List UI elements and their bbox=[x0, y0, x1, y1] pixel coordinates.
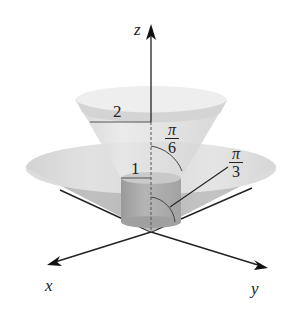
z-axis-label: z bbox=[134, 21, 141, 38]
diagram-canvas bbox=[0, 0, 296, 316]
angle-pi-3-numerator: π bbox=[228, 146, 244, 161]
radius-label-1: 1 bbox=[131, 160, 140, 177]
y-axis-line bbox=[151, 232, 258, 265]
angle-pi-6-numerator: π bbox=[164, 122, 180, 137]
cone-diagram: z x y 2 1 π 6 π 3 bbox=[0, 0, 296, 316]
radius-label-2: 2 bbox=[113, 103, 122, 120]
x-axis-line bbox=[55, 232, 151, 262]
angle-pi-6-denominator: 6 bbox=[164, 140, 180, 156]
x-axis-label: x bbox=[45, 277, 53, 294]
y-axis-label: y bbox=[251, 280, 259, 297]
axes-front bbox=[47, 232, 268, 270]
angle-label-pi-6: π 6 bbox=[164, 122, 180, 156]
angle-pi-3-denominator: 3 bbox=[228, 164, 244, 180]
angle-label-pi-3: π 3 bbox=[228, 146, 244, 180]
